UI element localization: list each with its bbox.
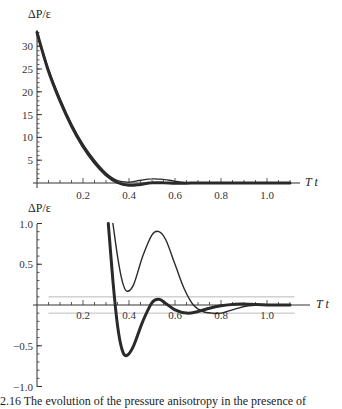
y-tick-label: 5 (28, 154, 34, 166)
x-tick-label: 0.2 (76, 309, 90, 321)
bottom-chart: ΔP/ε T t −1.0−0.50.51.0 0.20.40.60.81.0 (13, 201, 329, 393)
y-tick-label: −1.0 (13, 381, 33, 393)
top-y-axis-title: ΔP/ε (28, 7, 51, 21)
top-chart: ΔP/ε T t 51015202530 0.20.40.60.81.0 (22, 7, 318, 201)
y-tick-label: 10 (22, 131, 34, 143)
x-tick-label: 1.0 (260, 309, 274, 321)
top-series (37, 33, 290, 186)
top-y-ticks: 51015202530 (22, 33, 42, 179)
bottom-x-axis-title: T t (316, 297, 329, 311)
top-x-axis-title: T t (305, 175, 318, 189)
y-tick-label: −0.5 (13, 340, 33, 352)
x-tick-label: 0.4 (122, 309, 136, 321)
x-tick-label: 1.0 (260, 189, 274, 201)
x-tick-label: 0.4 (122, 189, 136, 201)
y-tick-label: 0.5 (19, 258, 33, 270)
x-tick-label: 0.8 (214, 189, 228, 201)
y-tick-label: 25 (22, 63, 34, 75)
y-tick-label: 1.0 (19, 218, 33, 230)
figure-caption: 2.16 The evolution of the pressure aniso… (0, 394, 306, 409)
y-tick-label: 30 (22, 40, 34, 52)
top-x-ticks: 0.20.40.60.81.0 (49, 178, 291, 201)
y-tick-label: 20 (22, 86, 34, 98)
series-line-thick (37, 33, 290, 186)
series-line-thin (113, 224, 290, 314)
x-tick-label: 0.8 (214, 309, 228, 321)
bottom-series (108, 224, 290, 356)
series-line-thin (37, 33, 290, 184)
x-tick-label: 0.2 (76, 189, 90, 201)
x-tick-label: 0.6 (168, 189, 182, 201)
bottom-y-axis-title: ΔP/ε (28, 201, 51, 215)
y-tick-label: 15 (22, 109, 34, 121)
series-line-thick (108, 224, 290, 356)
